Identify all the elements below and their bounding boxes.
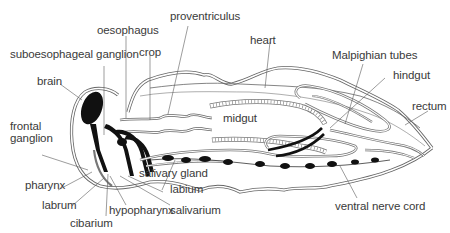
label-salivary-gland: salivary gland (139, 168, 208, 180)
label-labium: labium (170, 184, 203, 196)
label-proventriculus: proventriculus (170, 11, 240, 23)
label-hindgut: hindgut (393, 70, 430, 82)
label-cibarium: cibarium (70, 218, 113, 230)
label-brain: brain (37, 76, 62, 88)
label-suboesophageal-ganglion: suboesophageal ganglion (10, 49, 139, 61)
hindgut-loops (266, 86, 424, 158)
label-midgut: midgut (223, 113, 257, 125)
label-pharynx: pharynx (25, 180, 65, 192)
foregut (120, 115, 212, 133)
label-labrum: labrum (42, 200, 77, 212)
label-salivarium: salivarium (170, 205, 221, 217)
label-frontal-ganglion-1: frontal (10, 121, 41, 133)
label-malpighian-tubes: Malpighian tubes (332, 50, 417, 62)
body-wall (72, 68, 432, 192)
label-frontal-ganglion-2: ganglion (10, 133, 53, 145)
label-crop: crop (139, 47, 161, 59)
label-hypopharynx: hypopharynx (109, 205, 174, 217)
label-ventral-nerve-cord: ventral nerve cord (335, 201, 425, 213)
label-oesophagus: oesophagus (97, 25, 159, 37)
label-heart: heart (250, 35, 276, 47)
label-rectum: rectum (412, 101, 447, 113)
